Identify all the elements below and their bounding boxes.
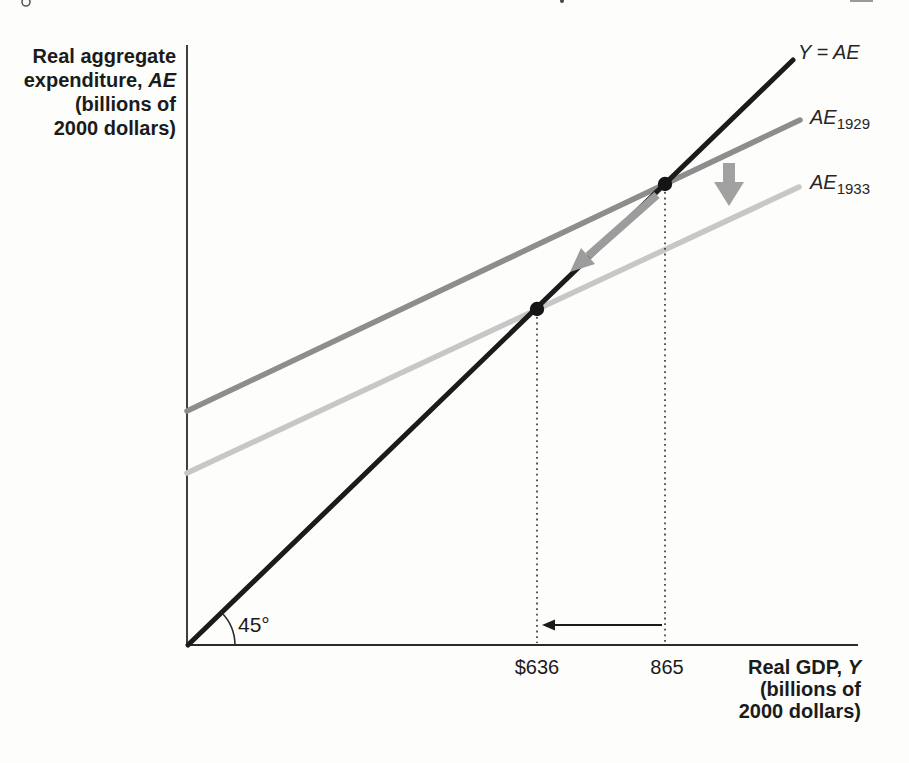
ae-1929-line [187, 120, 800, 411]
y-axis-label-line2: expenditure, AE [24, 69, 177, 91]
y-axis-label: Real aggregate expenditure, AE (billions… [24, 45, 177, 139]
tick-label-865: 865 [650, 656, 683, 678]
equilibrium-dot-1933 [530, 302, 544, 316]
equilibrium-dot-1929 [658, 177, 672, 191]
y-axis-label-line4: 2000 dollars) [54, 117, 176, 139]
caption-fragment-middle [560, 0, 564, 3]
curve-label-y-ae: Y = AE [798, 41, 860, 63]
cropped-caption-fragments [22, 0, 873, 6]
textbook-figure-page: Real aggregate expenditure, AE (billions… [0, 0, 909, 763]
x-axis-label-line2: (billions of [760, 678, 861, 700]
gdp-decrease-arrowhead [542, 620, 555, 631]
y-axis-label-line1: Real aggregate [33, 45, 176, 67]
ae-1933-line [187, 187, 799, 473]
angle-label: 45° [238, 613, 270, 636]
tick-label-636: $636 [515, 656, 560, 678]
caption-fragment-left [22, 0, 30, 6]
45-degree-arc [221, 612, 235, 645]
x-axis-label: Real GDP, Y (billions of 2000 dollars) [739, 656, 863, 722]
ae-45-degree-diagram: Real aggregate expenditure, AE (billions… [0, 0, 909, 763]
y-axis-label-line3: (billions of [75, 93, 176, 115]
ae-shift-down-arrow [714, 163, 744, 206]
curve-label-ae-1929: AE1929 [809, 106, 870, 132]
gdp-decrease-arrow [542, 620, 662, 631]
x-axis-label-line3: 2000 dollars) [739, 700, 861, 722]
45-degree-line [188, 60, 793, 645]
curve-label-ae-1933: AE1933 [809, 171, 870, 197]
x-axis-label-line1: Real GDP, Y [748, 656, 863, 678]
